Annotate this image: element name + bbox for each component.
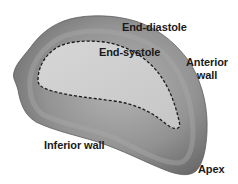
label-apex: Apex — [198, 163, 225, 175]
label-anterior-line2: wall — [185, 69, 229, 81]
label-end-systole: End-systole — [99, 46, 160, 58]
label-inferior-wall: Inferior wall — [44, 139, 104, 151]
label-end-diastole: End-diastole — [122, 21, 187, 33]
lv-diagram: End-diastole End-systole Anterior wall I… — [0, 0, 238, 184]
label-anterior-wall: Anterior wall — [185, 56, 229, 81]
ventricle-drawing — [0, 0, 238, 184]
label-anterior-line1: Anterior — [185, 56, 229, 68]
